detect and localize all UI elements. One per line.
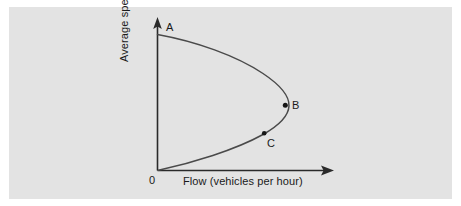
annotation-label-c: C — [267, 138, 275, 149]
annotation-label-b: B — [292, 100, 299, 111]
y-axis-label-text: Average speed — [119, 0, 130, 62]
data-point-c — [262, 131, 267, 136]
figure-root: A B C 0 Flow (vehicles per hour) Average… — [0, 0, 461, 206]
origin-label: 0 — [149, 175, 155, 186]
annotation-label-a: A — [166, 22, 173, 33]
data-point-b — [283, 103, 288, 108]
x-axis-label: Flow (vehicles per hour) — [183, 176, 303, 187]
speed-flow-curve — [158, 35, 290, 171]
y-axis-label: Average speed — [119, 0, 130, 62]
